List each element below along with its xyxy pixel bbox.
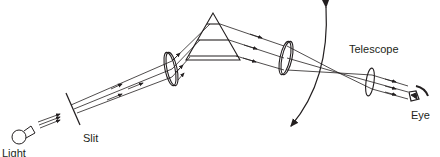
light-source-icon (12, 126, 35, 144)
rays-to-eye (372, 75, 408, 99)
slit (66, 93, 80, 125)
eye-icon (409, 86, 428, 101)
prism (186, 13, 240, 60)
eye-label: Eye (411, 109, 430, 121)
slit-label: Slit (83, 132, 98, 144)
source-rays (38, 114, 60, 128)
rays-prism-to-objective (220, 24, 284, 70)
rays-converging (287, 46, 339, 73)
rotation-arrow (291, 7, 326, 126)
eyepiece-lens (364, 68, 376, 97)
light-source-label: Light (2, 147, 26, 157)
light-source-label-line1: Light (2, 147, 26, 157)
spectrometer-diagram (0, 0, 440, 157)
rays-slit-to-collimator (71, 61, 172, 113)
telescope-label: Telescope (349, 43, 399, 55)
